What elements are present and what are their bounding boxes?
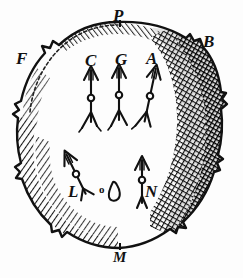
label-p: P [113,7,123,24]
label-g: G [115,51,127,68]
label-o: o [99,184,105,195]
label-l: L [68,183,78,200]
label-a: A [146,50,157,67]
label-n: N [145,183,157,200]
label-m: M [113,250,126,265]
label-b: B [203,33,214,50]
label-c: C [85,52,96,69]
woodcut-figure: P B F M C G A L N o [0,0,243,278]
label-f: F [16,50,27,67]
